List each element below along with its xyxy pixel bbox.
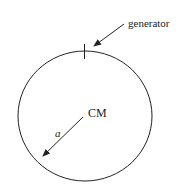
radius-label: a [55,127,61,139]
generator-arrow [94,24,124,46]
radius-arrow [43,117,83,156]
ring-circle [18,51,152,181]
ring-diagram: generator CM a [0,0,178,190]
center-of-mass-label: CM [88,106,107,120]
generator-label: generator [128,17,170,29]
